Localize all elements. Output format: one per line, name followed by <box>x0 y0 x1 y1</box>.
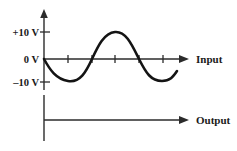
input-axis-label: Input <box>196 53 223 65</box>
input-y-label-zero: 0 V <box>24 54 40 65</box>
waveform-figure: +10 V 0 V –10 V Input Output <box>0 0 237 151</box>
input-y-label-plus10: +10 V <box>12 27 39 38</box>
input-y-axis-arrowhead <box>40 9 48 18</box>
output-plot-group: Output <box>44 95 231 141</box>
waveform-svg: +10 V 0 V –10 V Input Output <box>0 0 237 151</box>
output-x-axis-arrowhead <box>179 116 189 124</box>
input-y-label-minus10: –10 V <box>12 77 39 88</box>
output-axis-label: Output <box>196 114 231 126</box>
input-waveform-path <box>44 32 177 81</box>
input-plot-group: +10 V 0 V –10 V Input <box>12 9 222 90</box>
input-x-axis-arrowhead <box>179 55 189 63</box>
